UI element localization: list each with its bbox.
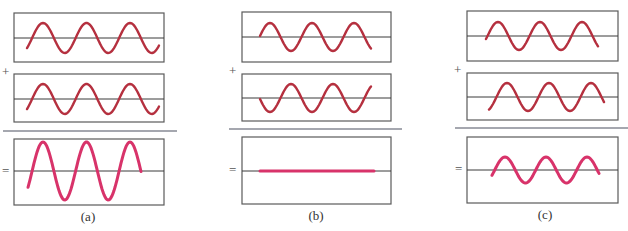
- panel-c-partial: +=(c): [454, 11, 628, 222]
- input-wave-box-1: [467, 11, 618, 61]
- input-wave-box-2: [467, 73, 618, 120]
- input-wave-box-1: [14, 13, 164, 62]
- equals-sign: =: [2, 163, 9, 178]
- plus-sign: +: [229, 63, 236, 78]
- plus-sign: +: [454, 62, 461, 77]
- panel-label: (c): [538, 207, 552, 222]
- panel-label: (b): [308, 208, 323, 223]
- panel-b-destructive: +=(b): [229, 12, 402, 223]
- result-wave-box: [242, 137, 391, 204]
- wave-superposition-diagram: +=(a) +=(b) +=(c): [0, 0, 628, 231]
- equals-sign: =: [455, 161, 462, 176]
- input-wave-box-1: [242, 12, 391, 62]
- result-wave-box: [467, 137, 618, 203]
- equals-sign: =: [229, 162, 236, 177]
- input-wave-box-2: [242, 74, 391, 121]
- result-wave-box: [14, 139, 164, 205]
- panel-label: (a): [81, 209, 95, 224]
- plus-sign: +: [2, 64, 9, 79]
- input-wave-box-2: [14, 74, 164, 122]
- panel-a-constructive: +=(a): [2, 13, 177, 224]
